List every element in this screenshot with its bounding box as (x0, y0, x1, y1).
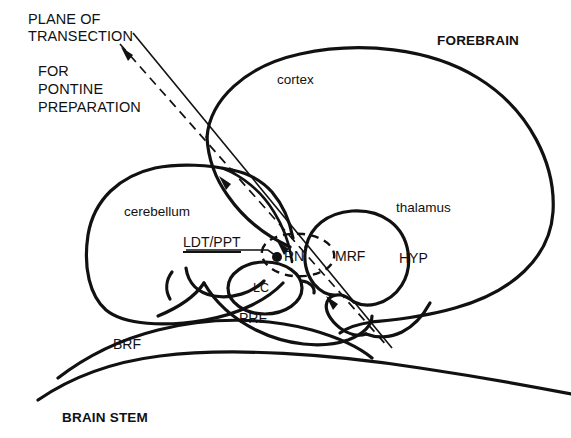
ldt-ppt-leader-layer (0, 0, 571, 438)
for-pontine-prep-label-line3: PREPARATION (38, 99, 141, 116)
cerebellum-label: cerebellum (124, 204, 190, 220)
for-pontine-prep-label-line1: FOR (38, 63, 69, 80)
prf-label: PRF (239, 310, 267, 326)
cortex-label: cortex (277, 72, 314, 88)
brain-diagram: PLANE OF TRANSECTION FOR PONTINE PREPARA… (0, 0, 571, 438)
ldt-ppt-label: LDT/PPT (183, 234, 241, 253)
brf-label: BRF (113, 336, 141, 352)
lc-label: LC (253, 281, 269, 296)
brain-stem-label: BRAIN STEM (62, 410, 148, 426)
hyp-label: HYP (399, 250, 428, 266)
for-pontine-prep-label-line2: PONTINE (38, 81, 103, 98)
rn-label: RN (284, 248, 304, 264)
thalamus-label: thalamus (396, 200, 451, 216)
plane-of-transection-label-line1: PLANE OF (28, 11, 101, 28)
ldt-ppt-marker-dot (272, 252, 282, 262)
plane-of-transection-label-line2: TRANSECTION (28, 28, 133, 45)
forebrain-label: FOREBRAIN (437, 33, 519, 49)
mrf-label: MRF (335, 248, 365, 264)
